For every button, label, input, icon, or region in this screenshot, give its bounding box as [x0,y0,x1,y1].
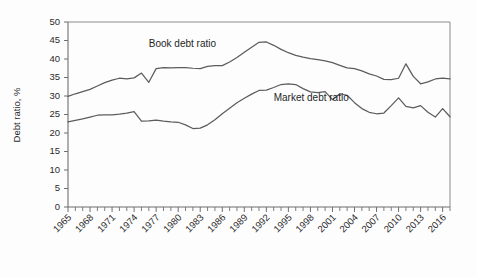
y-tick-label: 30 [49,90,60,101]
y-tick-label: 5 [55,182,60,193]
y-tick-label: 25 [49,108,60,119]
x-tick-label: 2001 [315,212,338,235]
x-tick-label: 1989 [227,212,250,235]
x-axis: 1965196819711974197719801983198619891992… [51,207,450,234]
debt-ratio-line-chart: 05101520253035404550 1965196819711974197… [0,0,477,277]
x-tick-label: 2007 [359,212,382,235]
y-tick-label: 50 [49,16,60,27]
x-tick-label: 1995 [271,212,294,235]
y-axis-title: Debt ratio, % [11,87,22,142]
y-tick-label: 15 [49,145,60,156]
x-tick-label: 1977 [139,212,162,235]
y-tick-label: 40 [49,53,60,64]
y-tick-label: 45 [49,34,60,45]
y-tick-label: 35 [49,71,60,82]
x-tick-label: 1971 [95,212,118,235]
x-tick-label: 1983 [183,212,206,235]
y-axis: 05101520253035404550 [49,16,68,212]
x-tick-label: 1980 [161,212,184,235]
y-tick-label: 10 [49,164,60,175]
y-tick-label: 20 [49,127,60,138]
series-annotations: Book debt ratioMarket debt ratio [149,38,349,103]
series-label-market-debt-ratio: Market debt ratio [274,92,349,103]
series-label-book-debt-ratio: Book debt ratio [149,38,217,49]
series-line-market-debt-ratio [68,84,450,129]
series-line-book-debt-ratio [68,42,450,96]
x-tick-label: 1974 [117,212,140,235]
chart-figure: 05101520253035404550 1965196819711974197… [0,0,477,277]
plot-frame [68,22,450,207]
y-tick-label: 0 [55,201,60,212]
x-tick-label: 2004 [337,212,360,235]
x-tick-label: 2010 [381,212,404,235]
x-tick-label: 2016 [425,212,448,235]
x-tick-label: 1992 [249,212,272,235]
x-tick-label: 1998 [293,212,316,235]
x-tick-label: 1968 [73,212,96,235]
x-tick-label: 2013 [403,212,426,235]
x-tick-label: 1986 [205,212,228,235]
x-tick-label: 1965 [51,212,74,235]
data-series [68,42,450,129]
